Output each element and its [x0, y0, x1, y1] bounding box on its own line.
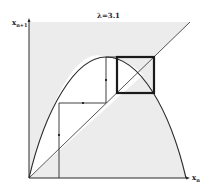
arrow-marker [105, 79, 107, 81]
title-lambda: λ=3.1 [97, 12, 120, 19]
arrow-marker [82, 102, 84, 104]
cobweb-diagram [0, 0, 214, 188]
arrow-marker [153, 74, 155, 76]
y-axis-label: xn+1 [12, 19, 28, 26]
y-axis-label-subscript: n+1 [16, 22, 27, 28]
x-axis-label-subscript: n [196, 177, 200, 183]
arrow-marker [58, 134, 60, 136]
x-axis-label: xn [192, 174, 200, 181]
arrow-marker [134, 92, 136, 94]
arrow-marker [134, 56, 136, 58]
